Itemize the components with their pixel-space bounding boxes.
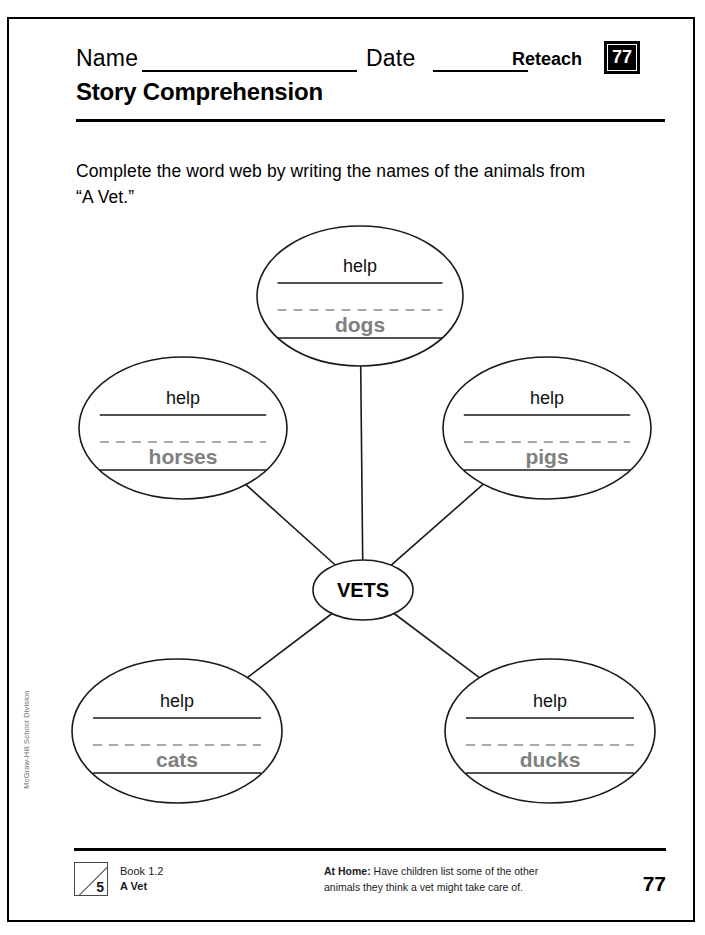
web-center-node: VETS bbox=[313, 560, 413, 620]
title-divider bbox=[76, 119, 665, 122]
page-title: Story Comprehension bbox=[76, 77, 323, 107]
node-answer-middle-left: horses bbox=[149, 445, 218, 468]
reteach-number: 77 bbox=[612, 48, 632, 67]
book-mark-icon: 5 bbox=[74, 862, 108, 896]
page-number: 77 bbox=[643, 872, 666, 896]
web-node-top[interactable]: helpdogs bbox=[257, 226, 463, 366]
node-prompt-middle-right: help bbox=[530, 388, 564, 408]
web-connector-middle-left bbox=[246, 485, 335, 565]
node-prompt-bottom-left: help bbox=[160, 691, 194, 711]
node-answer-bottom-left: cats bbox=[156, 748, 198, 771]
node-prompt-bottom-right: help bbox=[533, 691, 567, 711]
node-answer-middle-right: pigs bbox=[525, 445, 568, 468]
node-prompt-top: help bbox=[343, 256, 377, 276]
center-label: VETS bbox=[337, 579, 389, 601]
reteach-label: Reteach bbox=[512, 47, 582, 71]
node-prompt-middle-left: help bbox=[166, 388, 200, 408]
footer: 5 Book 1.2 A Vet At Home: Have children … bbox=[74, 858, 666, 912]
web-center-group: VETS bbox=[313, 560, 413, 620]
at-home-note: At Home: Have children list some of the … bbox=[324, 864, 574, 895]
worksheet-page: Name Date Reteach 77 Story Comprehension… bbox=[0, 0, 705, 935]
web-node-middle-left[interactable]: helphorses bbox=[79, 357, 287, 499]
reteach-number-badge: 77 bbox=[604, 41, 640, 74]
book-meta: Book 1.2 A Vet bbox=[120, 864, 163, 894]
node-oval-bottom-right bbox=[445, 659, 655, 803]
node-oval-bottom-left bbox=[72, 659, 282, 803]
book-title-line: Book 1.2 bbox=[120, 864, 163, 879]
node-oval-middle-left bbox=[79, 357, 287, 499]
instruction-text: Complete the word web by writing the nam… bbox=[76, 158, 596, 210]
web-nodes: helpdogshelphorseshelppigshelpcatshelpdu… bbox=[72, 226, 655, 803]
name-blank-line[interactable] bbox=[142, 70, 357, 72]
node-answer-top: dogs bbox=[335, 313, 385, 336]
web-connector-bottom-left bbox=[247, 614, 332, 678]
date-label: Date bbox=[366, 44, 415, 72]
web-connector-bottom-right bbox=[394, 614, 479, 678]
story-title-line: A Vet bbox=[120, 879, 163, 894]
web-connector-top bbox=[361, 366, 363, 560]
node-answer-bottom-right: ducks bbox=[520, 748, 581, 771]
name-label: Name bbox=[76, 44, 138, 72]
node-oval-middle-right bbox=[443, 357, 651, 499]
at-home-label: At Home: bbox=[324, 865, 371, 877]
footer-divider bbox=[74, 848, 666, 851]
publisher-imprint: McGraw-Hill School Division bbox=[22, 665, 31, 815]
web-connector-middle-right bbox=[391, 484, 483, 565]
header-row: Name Date Reteach 77 bbox=[76, 44, 668, 78]
book-mark-number: 5 bbox=[96, 879, 104, 895]
web-node-bottom-right[interactable]: helpducks bbox=[445, 659, 655, 803]
node-oval-top bbox=[257, 226, 463, 366]
web-node-bottom-left[interactable]: helpcats bbox=[72, 659, 282, 803]
word-web-diagram: helpdogshelphorseshelppigshelpcatshelpdu… bbox=[60, 213, 680, 828]
web-node-middle-right[interactable]: helppigs bbox=[443, 357, 651, 499]
